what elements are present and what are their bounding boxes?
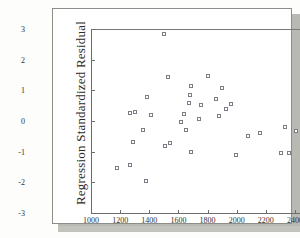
data-point <box>199 103 203 107</box>
data-point <box>279 151 283 155</box>
data-point <box>179 120 183 124</box>
x-axis-tick <box>178 210 179 213</box>
data-point <box>189 84 193 88</box>
y-axis-tick <box>92 90 95 91</box>
y-axis-tick-label: 0 <box>21 117 25 126</box>
y-axis-tick <box>92 121 95 122</box>
data-point <box>168 141 172 145</box>
y-axis-tick <box>92 152 95 153</box>
y-axis-tick-label: 1 <box>21 86 25 95</box>
data-point <box>182 112 186 116</box>
y-axis-tick <box>92 60 95 61</box>
data-point <box>234 153 238 157</box>
data-point <box>283 125 287 129</box>
data-point <box>184 128 188 132</box>
data-point <box>149 113 153 117</box>
data-point <box>197 117 201 121</box>
data-point <box>206 74 210 78</box>
y-axis-tick <box>92 29 95 30</box>
x-axis-tick <box>237 210 238 213</box>
data-point <box>145 95 149 99</box>
x-axis-tick <box>295 210 296 213</box>
y-axis-title: Regression Standardized Residual <box>73 13 89 213</box>
y-axis-tick-label: -1 <box>18 147 25 156</box>
data-point <box>166 75 170 79</box>
data-point <box>217 114 221 118</box>
data-point <box>115 166 119 170</box>
data-point <box>187 101 191 105</box>
data-point <box>133 110 137 114</box>
data-point <box>128 163 132 167</box>
data-point <box>162 32 166 36</box>
data-point <box>144 179 148 183</box>
data-point <box>258 131 262 135</box>
chart-figure: Regression Standardized Residual 1000120… <box>52 8 292 224</box>
x-axis-tick-label: 1600 <box>170 216 186 225</box>
x-axis-tick-label: 1000 <box>83 216 99 225</box>
data-point <box>294 129 298 133</box>
data-point <box>128 111 132 115</box>
data-point <box>224 107 228 111</box>
y-axis-tick-label: -3 <box>18 209 25 218</box>
data-point <box>131 140 135 144</box>
figure-bottom-shadow-strip <box>58 226 300 232</box>
data-point <box>188 93 192 97</box>
data-point <box>141 128 145 132</box>
y-axis-tick-label: 3 <box>21 25 25 34</box>
data-point <box>163 144 167 148</box>
y-axis-tick-label: -2 <box>18 178 25 187</box>
x-axis-tick-label: 1400 <box>141 216 157 225</box>
y-axis-tick <box>92 182 95 183</box>
data-point <box>246 134 250 138</box>
data-point <box>229 102 233 106</box>
x-axis-tick <box>208 210 209 213</box>
x-axis-tick-label: 1800 <box>200 216 216 225</box>
scatter-plot-area <box>91 29 300 213</box>
data-point <box>214 97 218 101</box>
x-axis-tick-label: 2000 <box>229 216 245 225</box>
x-axis-tick-label: 1200 <box>112 216 128 225</box>
x-axis-line <box>91 213 300 214</box>
y-axis-tick-label: 2 <box>21 55 25 64</box>
page-background: Regression Standardized Residual 1000120… <box>0 0 300 238</box>
data-point <box>220 86 224 90</box>
x-axis-tick <box>266 210 267 213</box>
data-point <box>287 151 291 155</box>
x-axis-tick-label: 2200 <box>258 216 274 225</box>
x-axis-tick-label: 2400 <box>287 216 300 225</box>
y-axis-tick <box>92 213 95 214</box>
x-axis-tick <box>149 210 150 213</box>
data-point <box>189 150 193 154</box>
x-axis-tick <box>120 210 121 213</box>
